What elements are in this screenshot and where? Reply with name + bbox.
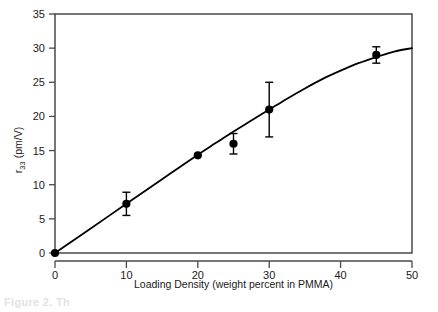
data-markers	[51, 51, 381, 257]
error-bars	[122, 47, 380, 216]
chart-canvas: 05101520253035 01020304050 Loading Densi…	[0, 0, 438, 312]
y-tick-label: 35	[33, 8, 45, 20]
data-point-marker	[229, 140, 237, 148]
x-tick-label: 50	[406, 269, 418, 281]
data-point-marker	[51, 249, 59, 257]
x-tick-label: 0	[52, 269, 58, 281]
y-tick-label: 20	[33, 110, 45, 122]
svg-text:r33 (pm/V): r33 (pm/V)	[12, 127, 27, 173]
y-axis-title-units: (pm/V)	[12, 127, 24, 161]
x-tick-label: 10	[120, 269, 132, 281]
data-point-marker	[194, 151, 202, 159]
y-tick-label: 15	[33, 145, 45, 157]
y-axis-title: r33 (pm/V)	[12, 127, 27, 173]
x-axis-title: Loading Density (weight percent in PMMA)	[134, 278, 333, 290]
y-tick-label: 5	[39, 213, 45, 225]
data-point-marker	[122, 200, 130, 208]
y-axis-title-subscript: 33	[18, 161, 27, 169]
figure-caption: Figure 2. Th	[4, 296, 70, 308]
figure-container: 05101520253035 01020304050 Loading Densi…	[0, 0, 438, 312]
data-point-marker	[372, 51, 380, 59]
y-axis: 05101520253035	[33, 8, 55, 259]
x-tick-label: 40	[334, 269, 346, 281]
y-tick-label: 0	[39, 247, 45, 259]
y-tick-label: 30	[33, 42, 45, 54]
data-point-marker	[265, 106, 273, 114]
y-tick-label: 10	[33, 179, 45, 191]
y-tick-label: 25	[33, 76, 45, 88]
